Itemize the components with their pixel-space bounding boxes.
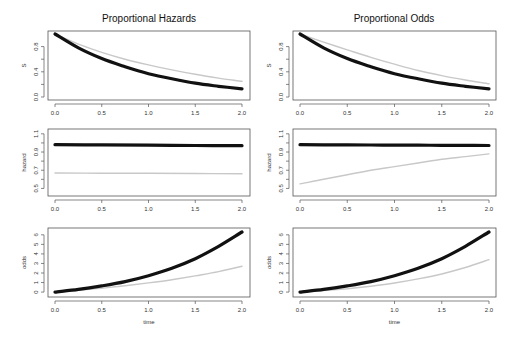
panel-S-ph: 0.00.51.01.52.00.00.40.8S [21,31,250,116]
x-tick-label: 1.0 [390,110,399,116]
x-tick-label: 0.0 [51,110,60,116]
series-black-line [300,145,489,146]
plot-frame [293,228,496,297]
y-tick-label: 5 [278,242,284,246]
x-tick-label: 0.0 [296,206,305,212]
x-tick-label: 1.5 [191,206,200,212]
y-axis: 0.00.40.8 [33,42,44,101]
y-axis: 0.50.70.91.1 [33,129,44,193]
panel-S-po: 0.00.51.01.52.00.00.40.8S [266,31,496,116]
y-tick-label: 0.0 [278,92,284,101]
title-proportional-hazards: Proportional Hazards [102,13,196,24]
y-tick-label: 1.1 [33,129,39,138]
y-tick-label: 0.7 [278,165,284,174]
x-tick-label: 0.0 [51,307,60,313]
x-tick-label: 0.5 [98,206,107,212]
series-gray-line [55,173,242,174]
x-tick-label: 2.0 [238,110,247,116]
x-tick-label: 0.5 [98,110,107,116]
y-tick-label: 2 [33,271,39,275]
panel-odds-ph: 0.00.51.01.52.00123456oddstime [21,228,250,325]
title-proportional-odds: Proportional Odds [354,13,435,24]
series-black-line [55,145,242,146]
figure: Proportional Hazards Proportional Odds 0… [0,0,514,342]
y-axis-label: S [21,63,27,67]
y-tick-label: 0.9 [278,147,284,156]
y-tick-label: 1.1 [278,129,284,138]
y-axis-label: odds [266,256,272,269]
y-tick-label: 6 [33,232,39,236]
x-tick-label: 1.5 [438,206,447,212]
y-tick-label: 0.7 [33,165,39,174]
x-axis: 0.00.51.01.52.0 [296,200,494,212]
x-tick-label: 0.0 [51,206,60,212]
x-tick-label: 0.5 [343,307,352,313]
x-axis-label: time [389,319,401,325]
y-tick-label: 0.4 [33,67,39,76]
x-axis: 0.00.51.01.52.0 [51,200,247,212]
x-tick-label: 1.0 [144,110,153,116]
y-tick-label: 0.0 [33,92,39,101]
plot-panels: 0.00.51.01.52.00.00.40.8S0.00.51.01.52.0… [21,31,496,325]
y-tick-label: 3 [33,261,39,265]
series-black-line [55,34,242,89]
y-tick-label: 0.8 [278,42,284,51]
y-axis-label: S [266,63,272,67]
y-tick-label: 0.5 [278,184,284,193]
y-axis-label: hazard [21,153,27,171]
panel-hazard-po: 0.00.51.01.52.00.50.70.91.1hazard [266,129,496,212]
plot-frame [293,129,496,196]
x-axis: 0.00.51.01.52.0 [51,104,247,116]
y-tick-label: 5 [33,242,39,246]
plot-frame [48,129,250,196]
x-tick-label: 1.0 [390,307,399,313]
x-axis: 0.00.51.01.52.0 [296,104,494,116]
x-tick-label: 1.5 [191,110,200,116]
panel-odds-po: 0.00.51.01.52.00123456oddstime [266,228,496,325]
x-axis-label: time [143,319,155,325]
y-tick-label: 0 [33,290,39,294]
x-tick-label: 1.0 [144,307,153,313]
y-tick-label: 4 [33,252,39,256]
plot-frame [48,228,250,297]
y-tick-label: 0.5 [33,184,39,193]
y-tick-label: 3 [278,261,284,265]
x-axis: 0.00.51.01.52.0 [51,301,247,313]
series-black-line [300,34,489,89]
y-tick-label: 0.8 [33,42,39,51]
panel-hazard-ph: 0.00.51.01.52.00.50.70.91.1hazard [21,129,250,212]
y-axis: 0123456 [278,232,289,293]
y-axis: 0123456 [33,232,44,293]
y-tick-label: 1 [278,280,284,284]
y-axis: 0.00.40.8 [278,42,289,101]
y-tick-label: 0.4 [278,67,284,76]
y-axis-label: odds [21,256,27,269]
x-tick-label: 0.5 [98,307,107,313]
x-tick-label: 1.5 [438,110,447,116]
x-axis: 0.00.51.01.52.0 [296,301,494,313]
y-tick-label: 0.9 [33,147,39,156]
x-tick-label: 0.0 [296,307,305,313]
y-tick-label: 0 [278,290,284,294]
x-tick-label: 2.0 [238,206,247,212]
x-tick-label: 1.0 [390,206,399,212]
x-tick-label: 0.5 [343,110,352,116]
x-tick-label: 2.0 [485,110,494,116]
y-axis: 0.50.70.91.1 [278,129,289,193]
series-gray-line [300,34,489,84]
x-tick-label: 2.0 [485,206,494,212]
x-tick-label: 1.5 [438,307,447,313]
y-tick-label: 1 [33,280,39,284]
y-axis-label: hazard [266,153,272,171]
x-tick-label: 1.5 [191,307,200,313]
x-tick-label: 0.0 [296,110,305,116]
y-tick-label: 2 [278,271,284,275]
x-tick-label: 2.0 [238,307,247,313]
x-tick-label: 0.5 [343,206,352,212]
y-tick-label: 6 [278,232,284,236]
plot-frame [293,31,496,100]
x-tick-label: 1.0 [144,206,153,212]
x-tick-label: 2.0 [485,307,494,313]
series-gray-line [300,154,489,184]
y-tick-label: 4 [278,252,284,256]
